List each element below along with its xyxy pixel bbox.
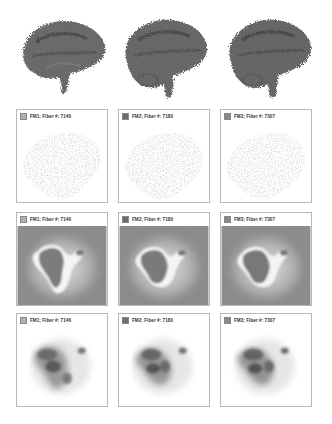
density-map [17, 327, 107, 406]
legend-swatch [224, 317, 231, 324]
panel-title: FM2; Fiber #: 7180 [132, 318, 173, 323]
legend-swatch [20, 216, 27, 223]
distance-panel-fm3: FM3; Fiber #: 7307 [220, 212, 312, 306]
brain-fiber-image [16, 12, 110, 100]
density-map [221, 327, 311, 406]
distance-map [17, 226, 107, 305]
distance-map [119, 226, 209, 305]
panel-header: FM1; Fiber #: 7146 [17, 110, 107, 123]
panel-header: FM2; Fiber #: 7180 [119, 314, 209, 327]
panel-header: FM1; Fiber #: 7146 [17, 314, 107, 327]
density-panel-fm2: FM2; Fiber #: 7180 [118, 313, 210, 407]
scatter-plot [17, 123, 107, 202]
legend-swatch [122, 216, 129, 223]
brain-fiber-render-fm2 [118, 12, 212, 100]
scatter-plot [221, 123, 311, 202]
scatter-panel-fm2: FM2; Fiber #: 7180 [118, 109, 210, 203]
panel-title: FM1; Fiber #: 7146 [30, 318, 71, 323]
panel-title: FM3; Fiber #: 7307 [234, 217, 275, 222]
scatter-panel-fm3: FM3; Fiber #: 7307 [220, 109, 312, 203]
legend-swatch [224, 113, 231, 120]
panel-header: FM3; Fiber #: 7307 [221, 314, 311, 327]
density-panel-fm3: FM3; Fiber #: 7307 [220, 313, 312, 407]
scatter-plot [119, 123, 209, 202]
brain-fiber-render-fm3 [222, 12, 316, 100]
scatter-panel-fm1: FM1; Fiber #: 7146 [16, 109, 108, 203]
legend-swatch [122, 113, 129, 120]
panel-header: FM2; Fiber #: 7180 [119, 213, 209, 226]
panel-title: FM2; Fiber #: 7180 [132, 217, 173, 222]
panel-header: FM1; Fiber #: 7146 [17, 213, 107, 226]
brain-fiber-render-fm1 [16, 12, 110, 100]
panel-title: FM3; Fiber #: 7307 [234, 114, 275, 119]
distance-panel-fm1: FM1; Fiber #: 7146 [16, 212, 108, 306]
distance-panel-fm2: FM2; Fiber #: 7180 [118, 212, 210, 306]
panel-title: FM1; Fiber #: 7146 [30, 217, 71, 222]
panel-title: FM2; Fiber #: 7180 [132, 114, 173, 119]
legend-swatch [122, 317, 129, 324]
distance-map [221, 226, 311, 305]
brain-fiber-image [118, 12, 212, 100]
panel-header: FM2; Fiber #: 7180 [119, 110, 209, 123]
panel-header: FM3; Fiber #: 7307 [221, 213, 311, 226]
brain-fiber-image [222, 12, 316, 100]
legend-swatch [224, 216, 231, 223]
density-map [119, 327, 209, 406]
panel-header: FM3; Fiber #: 7307 [221, 110, 311, 123]
panel-title: FM1; Fiber #: 7146 [30, 114, 71, 119]
density-panel-fm1: FM1; Fiber #: 7146 [16, 313, 108, 407]
legend-swatch [20, 113, 27, 120]
legend-swatch [20, 317, 27, 324]
panel-title: FM3; Fiber #: 7307 [234, 318, 275, 323]
